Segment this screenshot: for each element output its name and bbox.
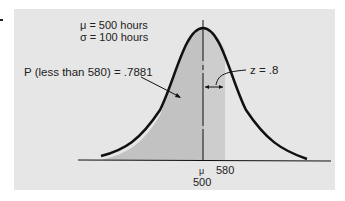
normal-curve-figure bbox=[0, 0, 345, 201]
sigma-parameter-label: σ = 100 hours bbox=[80, 31, 148, 43]
mean-value-tick: 500 bbox=[193, 176, 211, 188]
mu-parameter-label: μ = 500 hours bbox=[80, 19, 148, 31]
z-score-label: z = .8 bbox=[250, 64, 278, 76]
x-value-tick: 580 bbox=[216, 164, 234, 176]
x-axis bbox=[78, 160, 331, 161]
probability-label: P (less than 580) = .7881 bbox=[24, 66, 153, 78]
shaded-area-below-mean bbox=[101, 28, 203, 160]
